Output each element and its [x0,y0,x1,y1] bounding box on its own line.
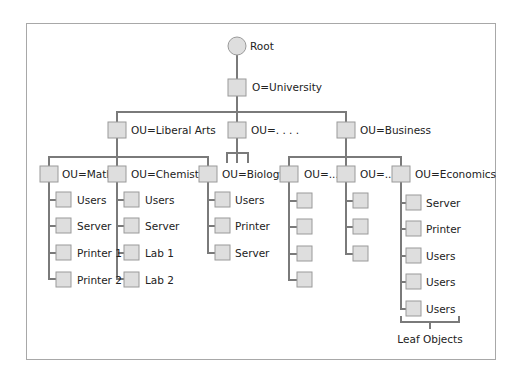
leaf-node[interactable]: Users [406,301,455,316]
ou-node-chemistry[interactable]: OU=Chemistry [108,166,209,182]
ou-node-unnamed-1[interactable]: OU=... [280,166,339,182]
container-box-icon [199,166,217,182]
leaf-list-unnamed-2 [353,193,368,261]
leaf-label: Users [426,276,455,288]
ou-label: OU=. . . . [251,124,299,136]
ou-label: OU=Business [360,124,431,136]
leaf-node[interactable]: Printer [215,218,271,233]
leaf-box-icon[interactable] [297,272,312,287]
leaf-label: Users [145,194,174,206]
leaf-label: Server [77,220,112,232]
leaf-box-icon [56,192,71,207]
ou-label: OU=Liberal Arts [131,124,216,136]
leaf-objects-annotation: Leaf Objects [397,333,462,345]
ou-node-business[interactable]: OU=Business [337,122,431,138]
root-label: Root [250,40,274,52]
container-box-icon [108,166,126,182]
org-node-university[interactable]: O=University [228,79,322,96]
leaf-label: Users [426,303,455,315]
container-box-icon [337,122,355,138]
container-box-icon [228,79,246,96]
leaf-node[interactable]: Printer 1 [56,245,122,260]
leaf-box-icon[interactable] [353,219,368,234]
root-circle-icon [228,37,246,55]
leaf-list-chemistry: Users Server Lab 1 Lab 2 [124,192,180,287]
connector-lines [49,55,459,329]
leaf-box-icon[interactable] [297,219,312,234]
leaf-label: Printer [426,223,462,235]
ou-label: OU=... [304,168,339,180]
leaf-label: Lab 1 [145,247,174,259]
leaf-box-icon [406,221,421,236]
ou-label: OU=... [360,168,395,180]
leaf-box-icon [124,192,139,207]
container-box-icon [40,166,58,182]
leaf-box-icon [215,192,230,207]
root-node[interactable]: Root [228,37,274,55]
leaf-box-icon [406,195,421,210]
ou-label: OU=Biology [222,168,286,180]
leaf-box-icon [406,248,421,263]
leaf-box-icon [124,218,139,233]
ou-node-unnamed-2[interactable]: OU=... [337,166,395,182]
leaf-box-icon[interactable] [353,193,368,208]
leaf-node[interactable]: Users [215,192,264,207]
leaf-label: Server [145,220,180,232]
leaf-box-icon [56,218,71,233]
directory-tree-diagram: Root O=University OU=Liberal Arts OU=. .… [0,0,523,378]
leaf-node[interactable]: Server [56,218,112,233]
leaf-node[interactable]: Users [406,248,455,263]
leaf-label: Users [235,194,264,206]
container-box-icon [392,166,410,182]
leaf-box-icon [406,274,421,289]
leaf-node[interactable]: Server [215,245,270,260]
leaf-node[interactable]: Users [406,274,455,289]
leaf-box-icon [56,272,71,287]
container-box-icon [228,122,246,138]
leaf-label: Server [235,247,270,259]
leaf-box-icon [124,272,139,287]
ou-node-liberal-arts[interactable]: OU=Liberal Arts [108,122,216,138]
leaf-list-biology: Users Printer Server [215,192,271,260]
leaf-box-icon[interactable] [353,246,368,261]
org-label: O=University [252,81,322,93]
leaf-node[interactable]: Printer 2 [56,272,122,287]
leaf-box-icon [56,245,71,260]
leaf-list-unnamed-1 [297,193,312,287]
leaf-node[interactable]: Printer [406,221,462,236]
ou-label: OU=Economics [415,168,496,180]
leaf-label: Lab 2 [145,274,174,286]
leaf-label: Printer [235,220,271,232]
leaf-label: Printer 2 [77,274,122,286]
leaf-box-icon [215,245,230,260]
leaf-box-icon[interactable] [297,193,312,208]
leaf-label: Users [426,250,455,262]
ou-node-math[interactable]: OU=Math [40,166,113,182]
ou-node-economics[interactable]: OU=Economics [392,166,496,182]
leaf-node[interactable]: Users [124,192,174,207]
leaf-label: Printer 1 [77,247,122,259]
container-box-icon [280,166,298,182]
leaf-label: Users [77,194,106,206]
leaf-node[interactable]: Users [56,192,106,207]
leaf-box-icon [215,218,230,233]
leaf-node[interactable]: Lab 1 [124,245,174,260]
container-box-icon [337,166,355,182]
leaf-box-icon [124,245,139,260]
ou-label: OU=Math [62,168,113,180]
container-box-icon [108,122,126,138]
ou-node-other[interactable]: OU=. . . . [228,122,299,138]
leaf-box-icon[interactable] [297,246,312,261]
leaf-node[interactable]: Server [406,195,461,210]
leaf-list-economics: Server Printer Users Users Users [406,195,462,316]
leaf-list-math: Users Server Printer 1 Printer 2 [56,192,122,287]
leaf-box-icon [406,301,421,316]
leaf-node[interactable]: Server [124,218,180,233]
leaf-node[interactable]: Lab 2 [124,272,174,287]
ou-node-biology[interactable]: OU=Biology [199,166,286,182]
leaf-label: Server [426,197,461,209]
ou-label: OU=Chemistry [131,168,209,180]
